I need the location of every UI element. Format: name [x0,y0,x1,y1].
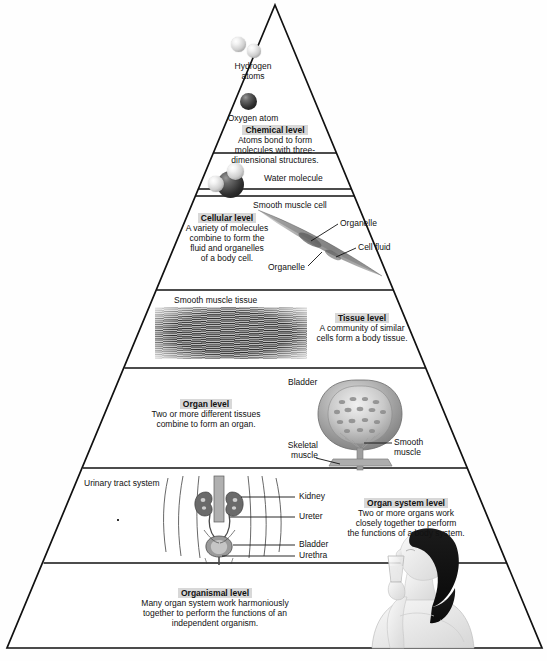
tissue-desc-line1: A community of similar [298,323,426,333]
organelle-top-label: Organelle [340,218,377,228]
organ-desc-line2: combine to form an organ. [124,419,288,429]
hydrogen-atom-1 [231,37,246,52]
figure-canvas: Hydrogen atoms Oxygen atom Chemical leve… [0,0,547,661]
water-hydrogen-atom-1 [227,163,244,180]
organelle-bottom-label: Organelle [268,262,305,272]
water-hydrogen-atom-2 [208,176,224,192]
cellular-desc-line3: fluid and organelles [168,243,286,253]
organismal-desc-line2: together to perform the functions of an [112,608,318,618]
stray-mark [117,519,119,521]
organ-system-desc-line1: Two or more organs work [327,508,485,518]
skeletal-muscle-line1: Skeletal [288,440,318,450]
organ-level-title: Organ level [180,399,232,409]
bladder-label: Bladder [288,377,317,387]
organ-level-text: Organ level Two or more different tissue… [124,399,288,429]
organ-desc-line1: Two or more different tissues [124,409,288,419]
oxygen-atom-label: Oxygen atom [213,113,293,123]
smooth-muscle-line1: Smooth [394,437,423,447]
smooth-muscle-tissue-artwork [155,307,307,359]
ureter-label: Ureter [299,511,323,521]
cellular-level-text: Cellular level A variety of molecules co… [168,213,286,263]
organ-system-desc-line3: the functions of a body system. [327,528,485,538]
chemical-desc-line1: Atoms bond to form [195,135,355,145]
skeletal-muscle-label: Skeletal muscle [272,440,318,460]
cell-fluid-label: Cell fluid [358,242,391,252]
organ-system-desc-line2: closely together to perform [327,518,485,528]
organismal-level-title: Organismal level [178,588,252,598]
chemical-level-text: Chemical level Atoms bond to form molecu… [195,125,355,165]
organismal-desc-line1: Many organ system work harmoniously [112,598,318,608]
organ-system-level-text: Organ system level Two or more organs wo… [327,498,485,538]
chemical-level-title: Chemical level [242,125,307,135]
chemical-desc-line2: molecules with three- [195,145,355,155]
smooth-muscle-cell-label: Smooth muscle cell [253,200,327,210]
cellular-desc-line2: combine to form the [168,233,286,243]
organismal-desc-line3: independent organism. [112,618,318,628]
water-molecule-artwork [207,163,259,199]
chemical-desc-line3: dimensional structures. [195,155,355,165]
kidney-label: Kidney [299,491,325,501]
hydrogen-atom-2 [247,44,261,58]
organismal-level-text: Organismal level Many organ system work … [112,588,318,628]
smooth-muscle-tissue-label: Smooth muscle tissue [174,295,257,305]
smooth-muscle-line2: muscle [394,447,421,457]
oxygen-atom [240,93,257,110]
hydrogen-atoms-artwork [231,35,273,61]
urethra-label: Urethra [299,550,327,560]
oxygen-atom-artwork [240,93,258,111]
tissue-level-text: Tissue level A community of similar cell… [298,313,426,343]
bladder-system-label: Bladder [299,539,328,549]
hydrogen-label-line1: Hydrogen [235,61,272,71]
water-molecule-label: Water molecule [264,173,323,183]
cellular-desc-line1: A variety of molecules [168,223,286,233]
tissue-desc-line2: cells form a body tissue. [298,333,426,343]
smooth-muscle-label: Smooth muscle [394,437,440,457]
organ-system-level-title: Organ system level [364,498,448,508]
hydrogen-atoms-label: Hydrogen atoms [223,61,283,81]
skeletal-muscle-line2: muscle [291,450,318,460]
urinary-tract-system-label: Urinary tract system [84,478,160,488]
cellular-level-title: Cellular level [198,213,256,223]
hydrogen-label-line2: atoms [241,71,264,81]
tissue-level-title: Tissue level [335,313,389,323]
